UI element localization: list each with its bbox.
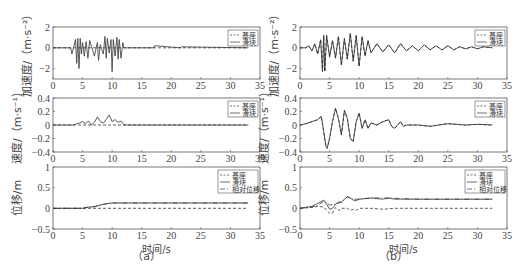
x-tick-label: 5	[80, 153, 85, 164]
y-axis-label: 位移/m	[10, 180, 24, 216]
x-tick-label: 25	[196, 80, 206, 91]
y-tick-label: 0	[45, 203, 50, 214]
y-tick-label: −0.2	[279, 133, 297, 144]
series-line	[53, 115, 248, 125]
y-tick-label: 0	[45, 120, 50, 131]
x-tick-label: 20	[166, 230, 176, 241]
y-tick-label: −2	[39, 63, 50, 74]
x-tick-label: 15	[384, 80, 394, 91]
chart-a-acc: 0510152025303520−2加速度/（m·s⁻²）基座滑块	[20, 9, 265, 98]
x-tick-label: 15	[137, 230, 147, 241]
x-tick-label: 25	[196, 230, 206, 241]
y-axis-label: 加速度/（m·s⁻²）	[20, 9, 34, 98]
x-tick-label: 35	[502, 230, 512, 241]
legend-entry: 滑块	[489, 109, 503, 118]
x-tick-label: 30	[225, 153, 235, 164]
x-tick-label: 15	[384, 230, 394, 241]
y-tick-label: −0.5	[32, 224, 50, 235]
x-tick-label: 25	[443, 80, 453, 91]
x-tick-label: 5	[327, 80, 332, 91]
x-tick-label: 35	[502, 80, 512, 91]
y-axis-label: 速度/（m·s⁻¹）	[257, 86, 271, 164]
caption-b: （b）	[379, 250, 408, 263]
x-tick-label: 0	[298, 80, 303, 91]
x-tick-label: 30	[225, 230, 235, 241]
x-tick-label: 10	[107, 80, 117, 91]
legend: 基座滑块相对位移	[218, 170, 260, 194]
y-tick-label: −2	[286, 63, 297, 74]
y-tick-label: 0	[292, 120, 297, 131]
y-tick-label: 0.5	[38, 182, 51, 193]
series-line	[300, 109, 492, 148]
x-tick-label: 25	[443, 153, 453, 164]
y-tick-label: 0.5	[285, 182, 298, 193]
x-tick-label: 5	[80, 230, 85, 241]
figure: 0510152025303520−2加速度/（m·s⁻²）基座滑块0510152…	[0, 0, 532, 273]
y-tick-label: 0.2	[38, 106, 51, 117]
caption-a: （a）	[132, 250, 161, 263]
legend: 基座滑块	[475, 101, 505, 118]
y-axis-label: 加速度/（m·s⁻²）	[267, 9, 281, 98]
x-tick-label: 0	[51, 153, 56, 164]
y-tick-label: 0	[45, 42, 50, 53]
x-tick-label: 20	[413, 230, 423, 241]
series-line	[53, 203, 248, 208]
x-tick-label: 20	[413, 80, 423, 91]
x-tick-label: 10	[107, 153, 117, 164]
legend-entry: 相对位移	[232, 185, 260, 194]
x-tick-label: 35	[502, 153, 512, 164]
x-tick-label: 25	[443, 230, 453, 241]
y-tick-label: 2	[45, 22, 50, 33]
series-line	[53, 36, 248, 71]
legend-entry: 相对位移	[479, 185, 507, 194]
x-tick-label: 15	[137, 80, 147, 91]
x-tick-label: 10	[354, 80, 364, 91]
legend: 基座滑块	[228, 101, 258, 118]
chart-b-disp: 0510152025303510.50−0.5位移/m时间/s基座滑块相对位移	[257, 162, 512, 256]
x-tick-label: 5	[327, 230, 332, 241]
x-tick-label: 20	[413, 153, 423, 164]
y-tick-label: 2	[292, 22, 297, 33]
x-tick-label: 0	[51, 230, 56, 241]
x-tick-label: 10	[354, 230, 364, 241]
series-line	[300, 34, 492, 71]
y-tick-label: 1	[292, 162, 297, 173]
x-tick-label: 20	[166, 80, 176, 91]
x-tick-label: 5	[327, 153, 332, 164]
x-tick-label: 15	[137, 153, 147, 164]
y-tick-label: 1	[45, 162, 50, 173]
x-tick-label: 30	[472, 80, 482, 91]
x-tick-label: 35	[255, 230, 265, 241]
chart-a-vel: 051015202530350.40.20−0.2−0.4速度/（m·s⁻¹）基…	[10, 86, 265, 164]
x-tick-label: 5	[80, 80, 85, 91]
x-tick-label: 10	[107, 230, 117, 241]
y-axis-label: 位移/m	[257, 180, 271, 216]
legend-entry: 滑块	[242, 38, 256, 47]
x-tick-label: 30	[472, 230, 482, 241]
chart-a-disp: 0510152025303510.50−0.5位移/m时间/s基座滑块相对位移	[10, 162, 265, 256]
y-tick-label: 0.2	[285, 106, 298, 117]
legend: 基座滑块相对位移	[465, 170, 507, 194]
legend: 基座滑块	[475, 30, 505, 47]
x-tick-label: 30	[472, 153, 482, 164]
y-tick-label: 0	[292, 42, 297, 53]
series-line	[300, 197, 492, 209]
y-tick-label: −0.4	[279, 147, 297, 158]
x-tick-label: 15	[384, 153, 394, 164]
y-tick-label: −0.2	[32, 133, 50, 144]
y-tick-label: 0.4	[38, 93, 51, 104]
x-tick-label: 25	[196, 153, 206, 164]
x-tick-label: 0	[298, 230, 303, 241]
y-tick-label: −0.4	[32, 147, 50, 158]
y-axis-label: 速度/（m·s⁻¹）	[10, 86, 24, 164]
legend-entry: 滑块	[489, 38, 503, 47]
x-tick-label: 0	[298, 153, 303, 164]
chart-b-acc: 0510152025303520−2加速度/（m·s⁻²）基座滑块	[267, 9, 512, 98]
y-tick-label: −0.5	[279, 224, 297, 235]
y-tick-label: 0.4	[285, 93, 298, 104]
series-line	[53, 203, 248, 208]
y-tick-label: 0	[292, 203, 297, 214]
x-tick-label: 10	[354, 153, 364, 164]
x-tick-label: 0	[51, 80, 56, 91]
chart-b-vel: 051015202530350.40.20−0.2−0.4速度/（m·s⁻¹）基…	[257, 86, 512, 164]
